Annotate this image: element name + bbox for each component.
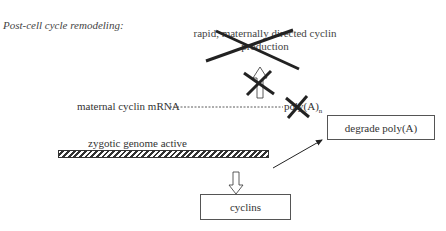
poly-a-cross-icon	[286, 96, 309, 118]
zga-to-degrade-arrow	[273, 140, 322, 168]
rapid-production-cross-icon	[206, 30, 299, 69]
diagram-connectors	[0, 0, 446, 231]
down-hollow-arrow-icon	[229, 172, 243, 194]
